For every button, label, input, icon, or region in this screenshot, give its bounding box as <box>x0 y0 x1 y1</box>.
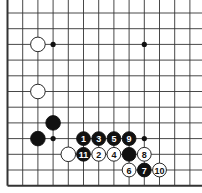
stone-icon <box>61 147 76 162</box>
black-stone: 1 <box>77 132 91 146</box>
move-number-label: 7 <box>142 166 147 176</box>
white-stone: 6 <box>122 163 136 177</box>
white-stone: 10 <box>153 163 167 177</box>
black-stone: 7 <box>137 163 151 177</box>
move-number-label: 1 <box>81 134 86 144</box>
stone-icon <box>31 131 46 146</box>
black-stone: 5 <box>107 132 121 146</box>
move-number-label: 2 <box>96 150 101 160</box>
white-stone <box>31 84 46 99</box>
white-stone <box>31 37 46 52</box>
move-number-label: 9 <box>127 134 132 144</box>
white-stone: 8 <box>137 147 151 161</box>
move-number-label: 8 <box>142 150 147 160</box>
move-number-label: 4 <box>111 150 116 160</box>
white-stone <box>61 147 76 162</box>
go-board: 1234567891011 <box>0 0 202 193</box>
move-number-label: 6 <box>127 166 132 176</box>
black-stone <box>31 131 46 146</box>
stone-icon <box>122 147 136 161</box>
move-number-label: 3 <box>96 134 101 144</box>
stone-icon <box>46 116 61 131</box>
black-stone: 3 <box>92 132 106 146</box>
black-stone <box>122 147 136 161</box>
star-point-icon <box>142 42 147 47</box>
white-stone: 2 <box>92 147 106 161</box>
move-number-label: 11 <box>79 150 89 160</box>
black-stone: 11 <box>77 147 91 161</box>
stone-icon <box>31 84 46 99</box>
black-stone <box>46 116 61 131</box>
star-point-icon <box>51 42 56 47</box>
star-point-icon <box>51 136 56 141</box>
star-point-icon <box>142 136 147 141</box>
white-stone: 4 <box>107 147 121 161</box>
stone-icon <box>31 37 46 52</box>
black-stone: 9 <box>122 132 136 146</box>
move-number-label: 10 <box>154 166 164 176</box>
move-number-label: 5 <box>111 134 116 144</box>
